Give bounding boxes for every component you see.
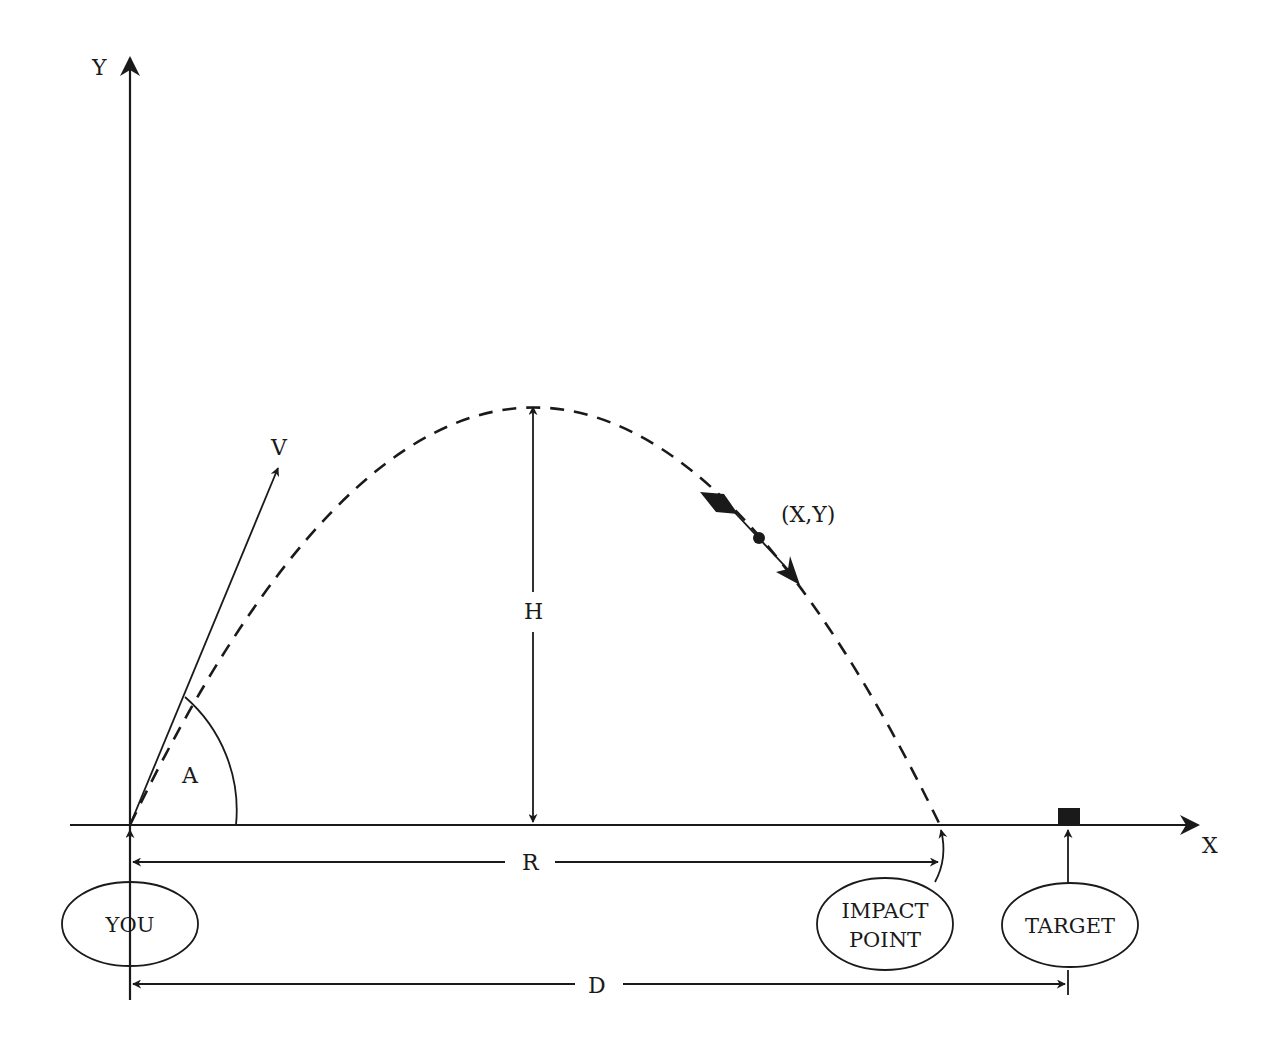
angle-label: A [181, 763, 199, 788]
impact-label-line1: IMPACT [841, 899, 928, 923]
velocity-vector: V [130, 435, 288, 825]
range-dimension: R [133, 850, 938, 875]
y-axis: Y [91, 55, 130, 1000]
projectile-arrow: (X,Y) [700, 492, 835, 585]
y-axis-label: Y [91, 55, 107, 80]
impact-label-line2: POINT [849, 928, 921, 952]
you-label: YOU [105, 913, 155, 937]
range-label: R [522, 850, 540, 875]
velocity-label: V [270, 435, 288, 460]
x-axis: X [70, 825, 1218, 858]
x-axis-label: X [1202, 833, 1218, 858]
target-node: TARGET [1002, 808, 1138, 967]
target-label: TARGET [1025, 914, 1115, 938]
position-point [753, 532, 765, 544]
target-marker-icon [1058, 808, 1080, 825]
projectile-diagram: Y X V A H (X,Y) R D [0, 0, 1280, 1054]
height-label: H [524, 599, 543, 624]
height-dimension: H [524, 407, 543, 822]
impact-point-node: IMPACT POINT [817, 830, 953, 970]
distance-dimension: D [130, 970, 1068, 998]
angle-arc: A [181, 697, 237, 825]
distance-label: D [588, 973, 606, 998]
position-label: (X,Y) [781, 502, 835, 527]
